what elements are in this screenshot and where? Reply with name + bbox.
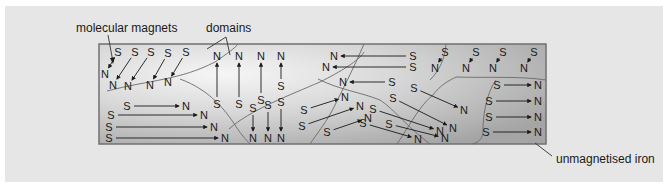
south-pole-label: S bbox=[359, 117, 366, 129]
north-pole-label: N bbox=[330, 50, 338, 62]
south-pole-label: S bbox=[264, 99, 271, 111]
south-pole-label: S bbox=[300, 104, 307, 116]
north-pole-label: N bbox=[534, 111, 542, 123]
north-pole-label: N bbox=[449, 122, 457, 134]
south-pole-label: S bbox=[107, 109, 114, 121]
south-pole-label: S bbox=[493, 79, 500, 91]
south-pole-label: S bbox=[123, 100, 130, 112]
south-pole-label: S bbox=[369, 103, 376, 115]
south-pole-label: S bbox=[441, 46, 448, 58]
north-pole-label: N bbox=[431, 62, 439, 74]
north-pole-label: N bbox=[277, 50, 285, 62]
label-domains: domains bbox=[206, 21, 251, 35]
south-pole-label: S bbox=[530, 46, 537, 58]
south-pole-label: S bbox=[499, 46, 506, 58]
leader-unmagnetised-iron bbox=[535, 143, 552, 156]
south-pole-label: S bbox=[277, 80, 284, 92]
south-pole-label: S bbox=[182, 46, 189, 58]
south-pole-label: S bbox=[388, 76, 395, 88]
south-pole-label: S bbox=[147, 46, 154, 58]
north-pole-label: N bbox=[164, 76, 172, 88]
south-pole-label: S bbox=[235, 98, 242, 110]
label-unmagnetised-iron: unmagnetised iron bbox=[556, 152, 655, 166]
north-pole-label: N bbox=[414, 133, 422, 145]
north-pole-label: N bbox=[200, 109, 208, 121]
label-molecular-magnets: molecular magnets bbox=[76, 21, 177, 35]
north-pole-label: N bbox=[124, 80, 132, 92]
north-pole-label: N bbox=[221, 132, 229, 144]
north-pole-label: N bbox=[146, 79, 154, 91]
south-pole-label: S bbox=[385, 118, 392, 130]
north-pole-label: N bbox=[257, 50, 265, 62]
south-pole-label: S bbox=[298, 120, 305, 132]
south-pole-label: S bbox=[472, 46, 479, 58]
south-pole-label: S bbox=[131, 46, 138, 58]
south-pole-label: S bbox=[323, 126, 330, 138]
north-pole-label: N bbox=[101, 68, 109, 80]
north-pole-label: N bbox=[249, 132, 257, 144]
south-pole-label: S bbox=[105, 132, 112, 144]
north-pole-label: N bbox=[339, 76, 347, 88]
south-pole-label: S bbox=[114, 46, 121, 58]
south-pole-label: S bbox=[482, 126, 489, 138]
north-pole-label: N bbox=[441, 132, 449, 144]
south-pole-label: S bbox=[410, 82, 417, 94]
south-pole-label: S bbox=[164, 47, 171, 59]
north-pole-label: N bbox=[534, 95, 542, 107]
south-pole-label: S bbox=[213, 98, 220, 110]
north-pole-label: N bbox=[264, 132, 272, 144]
north-pole-label: N bbox=[277, 132, 285, 144]
south-pole-label: S bbox=[485, 111, 492, 123]
north-pole-label: N bbox=[520, 62, 528, 74]
north-pole-label: N bbox=[182, 100, 190, 112]
north-pole-label: N bbox=[534, 79, 542, 91]
north-pole-label: N bbox=[210, 121, 218, 133]
north-pole-label: N bbox=[534, 126, 542, 138]
iron-domains-diagram: SNSNSNSNSNSNSNSNSNSNSNSNSNSNSNSNSNSNSNSN… bbox=[0, 0, 668, 188]
north-pole-label: N bbox=[213, 50, 221, 62]
north-pole-label: N bbox=[235, 50, 243, 62]
south-pole-label: S bbox=[277, 96, 284, 108]
north-pole-label: N bbox=[356, 100, 364, 112]
south-pole-label: S bbox=[389, 92, 396, 104]
north-pole-label: N bbox=[341, 91, 349, 103]
south-pole-label: S bbox=[409, 61, 416, 73]
south-pole-label: S bbox=[485, 95, 492, 107]
north-pole-label: N bbox=[462, 62, 470, 74]
north-pole-label: N bbox=[109, 79, 117, 91]
north-pole-label: N bbox=[489, 62, 497, 74]
north-pole-label: N bbox=[322, 61, 330, 73]
north-pole-label: N bbox=[460, 104, 468, 116]
south-pole-label: S bbox=[249, 102, 256, 114]
